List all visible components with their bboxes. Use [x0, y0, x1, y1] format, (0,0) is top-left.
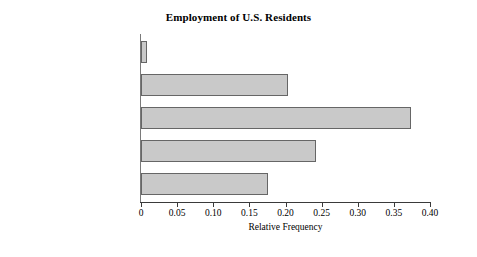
x-tick-label: 0.30 — [341, 208, 375, 218]
bar — [141, 173, 268, 195]
bar — [141, 140, 316, 162]
x-axis-title: Relative Frequency — [141, 222, 430, 232]
bar-chart-figure: Employment of U.S. Residents Farming, fo… — [0, 0, 477, 257]
x-tick-label: 0.15 — [232, 208, 266, 218]
x-tick-mark — [141, 203, 142, 207]
x-tick-mark — [358, 203, 359, 207]
bar — [141, 107, 411, 129]
x-tick-mark — [213, 203, 214, 207]
chart-title: Employment of U.S. Residents — [0, 11, 477, 23]
x-tick-mark — [286, 203, 287, 207]
x-tick-mark — [430, 203, 431, 207]
x-tick-label: 0.35 — [377, 208, 411, 218]
x-tick-label: 0.20 — [269, 208, 303, 218]
x-tick-mark — [322, 203, 323, 207]
bar — [141, 74, 288, 96]
x-tick-mark — [249, 203, 250, 207]
x-tick-label: 0 — [124, 208, 158, 218]
x-tick-mark — [177, 203, 178, 207]
x-tick-label: 0.25 — [305, 208, 339, 218]
x-tick-mark — [394, 203, 395, 207]
x-tick-label: 0.40 — [413, 208, 447, 218]
x-tick-label: 0.10 — [196, 208, 230, 218]
x-tick-label: 0.05 — [160, 208, 194, 218]
bar — [141, 41, 147, 63]
